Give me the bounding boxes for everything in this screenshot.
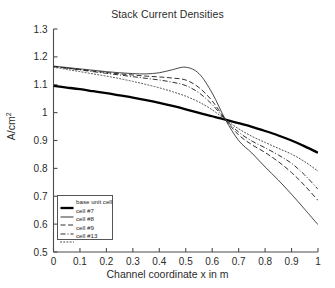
x-tick-label: 0.2: [99, 256, 113, 267]
plot-area: 0.50.60.70.80.911.11.21.300.10.20.30.40.…: [0, 0, 335, 288]
x-tick-label: 0.3: [126, 256, 140, 267]
x-tick-label: 0.9: [285, 256, 299, 267]
legend-item: cell #9: [60, 224, 110, 232]
legend-label: cell #13: [76, 232, 97, 240]
legend-item: cell #8: [60, 215, 110, 223]
y-tick-label: 0.5: [34, 247, 48, 258]
legend-line-sample: [60, 207, 74, 215]
chart-figure: Stack Current Densities A/cm2 0.50.60.70…: [0, 0, 335, 288]
x-tick-label: 0: [51, 256, 57, 267]
x-tick-label: 0.1: [73, 256, 87, 267]
legend-line-sample: [60, 215, 74, 223]
y-tick-label: 1: [42, 107, 48, 118]
y-tick-label: 1.2: [34, 51, 48, 62]
x-tick-label: 0.4: [152, 256, 166, 267]
y-tick-label: 1.1: [34, 79, 48, 90]
legend-item: cell #7: [60, 207, 110, 215]
x-tick-label: 1: [315, 256, 321, 267]
x-tick-label: 0.7: [232, 256, 246, 267]
chart-legend: base unit cellcell #7cell #8cell #9cell …: [57, 195, 113, 240]
legend-label: cell #8: [76, 215, 94, 223]
legend-label: base unit cell: [76, 198, 112, 206]
x-tick-label: 0.6: [205, 256, 219, 267]
legend-line-sample: [60, 198, 74, 206]
legend-label: cell #7: [76, 207, 94, 215]
y-tick-label: 0.6: [34, 219, 48, 230]
y-tick-label: 0.9: [34, 135, 48, 146]
y-tick-label: 0.7: [34, 191, 48, 202]
x-axis-label: Channel coordinate x in m: [0, 268, 335, 280]
series-line: [54, 67, 319, 190]
y-tick-label: 0.8: [34, 163, 48, 174]
legend-item: cell #13: [60, 232, 110, 240]
series-line: [54, 67, 319, 171]
x-tick-label: 0.5: [179, 256, 193, 267]
y-tick-label: 1.3: [34, 24, 48, 35]
legend-line-sample: [60, 232, 74, 240]
legend-label: cell #9: [76, 224, 94, 232]
x-tick-label: 0.8: [258, 256, 272, 267]
legend-item: base unit cell: [60, 198, 110, 206]
legend-line-sample: [60, 224, 74, 232]
